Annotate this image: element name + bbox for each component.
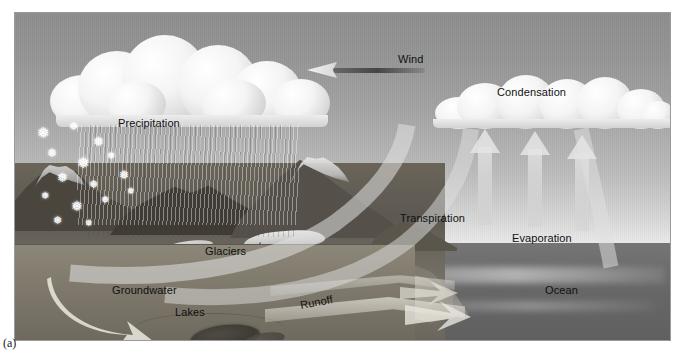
water-cycle-figure: ❅ ❅ ❅ ❅ ❅ ❅ ❅ ❅ ❅ ❅ ❅ ❅ ❅ ❅ ❅ bbox=[0, 0, 681, 360]
label-precipitation: Precipitation bbox=[118, 117, 180, 129]
label-wind: Wind bbox=[398, 53, 423, 65]
label-transpiration: Transpiration bbox=[400, 212, 465, 224]
label-condensation: Condensation bbox=[497, 86, 566, 98]
evaporation-arrow-1 bbox=[470, 129, 500, 203]
evaporation-arrow-3 bbox=[567, 135, 597, 203]
runoff-arrowhead-icon-upper bbox=[400, 279, 462, 307]
label-groundwater: Groundwater bbox=[112, 284, 177, 296]
diagram-scene: ❅ ❅ ❅ ❅ ❅ ❅ ❅ ❅ ❅ ❅ ❅ ❅ ❅ ❅ ❅ bbox=[15, 13, 670, 340]
label-glaciers: Glaciers bbox=[205, 245, 246, 257]
figure-caption: (a) bbox=[3, 336, 16, 351]
label-ocean: Ocean bbox=[545, 284, 578, 296]
evaporation-arrow-2 bbox=[520, 131, 550, 203]
label-evaporation: Evaporation bbox=[512, 232, 572, 244]
label-lakes: Lakes bbox=[175, 306, 205, 318]
